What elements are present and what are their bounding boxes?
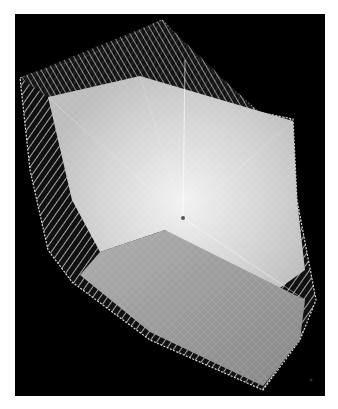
center-point bbox=[181, 216, 185, 220]
mesh-render bbox=[0, 0, 338, 409]
stray-point bbox=[310, 379, 313, 382]
